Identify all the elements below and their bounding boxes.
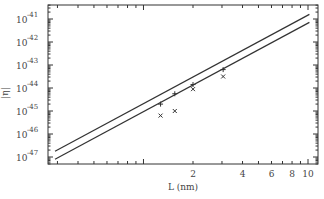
curve-line xyxy=(55,14,309,151)
log-log-plot: 24681010-4110-4210-4310-4410-4510-4610-4… xyxy=(0,0,324,199)
y-tick-label-exponent: -45 xyxy=(27,103,38,111)
y-tick-label-exponent: -42 xyxy=(27,34,38,42)
y-axis-label: |η| xyxy=(0,87,11,98)
x-tick-label: 10 xyxy=(302,169,314,179)
y-tick-label-exponent: -44 xyxy=(27,80,39,88)
x-tick-label: 4 xyxy=(240,169,246,179)
y-tick-label-base: 10 xyxy=(16,38,28,48)
x-tick-label: 2 xyxy=(190,169,196,179)
y-tick-label-base: 10 xyxy=(16,130,28,140)
x-axis-label: L (nm) xyxy=(168,182,198,192)
y-tick-label-base: 10 xyxy=(16,84,28,94)
x-tick-label: 6 xyxy=(269,169,275,179)
y-tick-label-exponent: -43 xyxy=(27,57,38,65)
y-tick-label-base: 10 xyxy=(16,107,28,117)
x-tick-label: 8 xyxy=(289,169,295,179)
y-tick-label-exponent: -47 xyxy=(27,149,38,157)
y-tick-label-base: 10 xyxy=(16,15,28,25)
y-tick-label-base: 10 xyxy=(16,61,28,71)
plot-frame xyxy=(48,5,318,164)
y-tick-label-base: 10 xyxy=(16,153,28,163)
y-tick-label-exponent: -41 xyxy=(27,11,38,19)
chart: 24681010-4110-4210-4310-4410-4510-4610-4… xyxy=(0,0,324,199)
y-tick-label-exponent: -46 xyxy=(27,126,39,134)
curve-line xyxy=(55,22,309,159)
